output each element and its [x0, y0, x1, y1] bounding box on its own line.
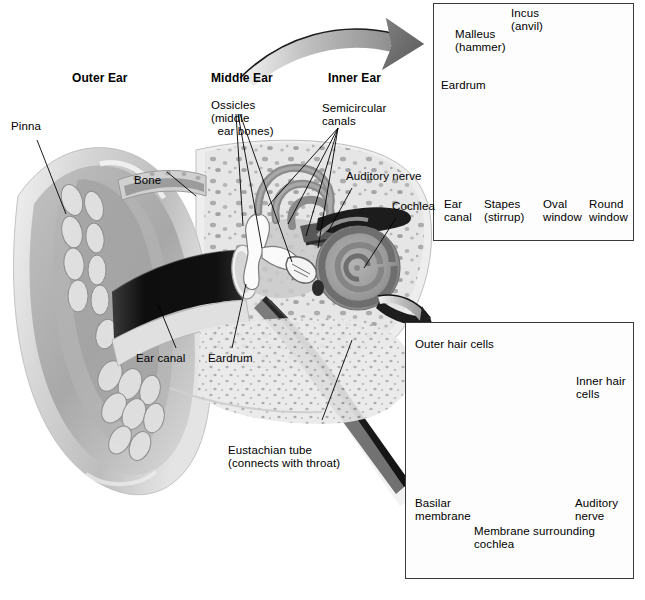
heading-outer-ear: Outer Ear	[72, 72, 128, 85]
inset-label-basilar-membrane: Basilar membrane	[415, 497, 471, 523]
label-pinna: Pinna	[11, 120, 41, 133]
label-bone: Bone	[134, 174, 161, 187]
heading-inner-ear: Inner Ear	[328, 72, 381, 85]
label-eardrum: Eardrum	[208, 352, 253, 365]
inset-label-round-window: Round window	[589, 198, 628, 224]
label-ossicles: Ossicles (middle ear bones)	[211, 99, 274, 138]
inset-label-outer-hair-cells: Outer hair cells	[415, 338, 494, 351]
heading-middle-ear: Middle Ear	[211, 72, 273, 85]
inset-label-membrane-surrounding-cochlea: Membrane surrounding cochlea	[474, 525, 595, 551]
ear-anatomy-figure: Outer Ear Middle Ear Inner Ear Pinna Bon…	[0, 0, 645, 600]
inset-label-stapes: Stapes (stirrup)	[484, 198, 525, 224]
label-semicircular-canals: Semicircular canals	[322, 102, 386, 128]
inset-label-eardrum: Eardrum	[441, 79, 486, 92]
label-cochlea: Cochlea	[392, 200, 435, 213]
inset-label-oval-window: Oval window	[543, 198, 582, 224]
ear-cross-section	[14, 140, 432, 506]
inset-label-ear-canal: Ear canal	[444, 198, 472, 224]
label-auditory-nerve: Auditory nerve	[346, 170, 422, 183]
inset-label-malleus: Malleus (hammer)	[455, 28, 506, 54]
inset-label-auditory-nerve: Auditory nerve	[575, 497, 618, 523]
inset-label-incus: Incus (anvil)	[511, 7, 543, 33]
label-eustachian-tube: Eustachian tube (connects with throat)	[228, 444, 340, 470]
label-ear-canal: Ear canal	[136, 352, 185, 365]
inset-label-inner-hair-cells: Inner hair cells	[576, 375, 626, 401]
